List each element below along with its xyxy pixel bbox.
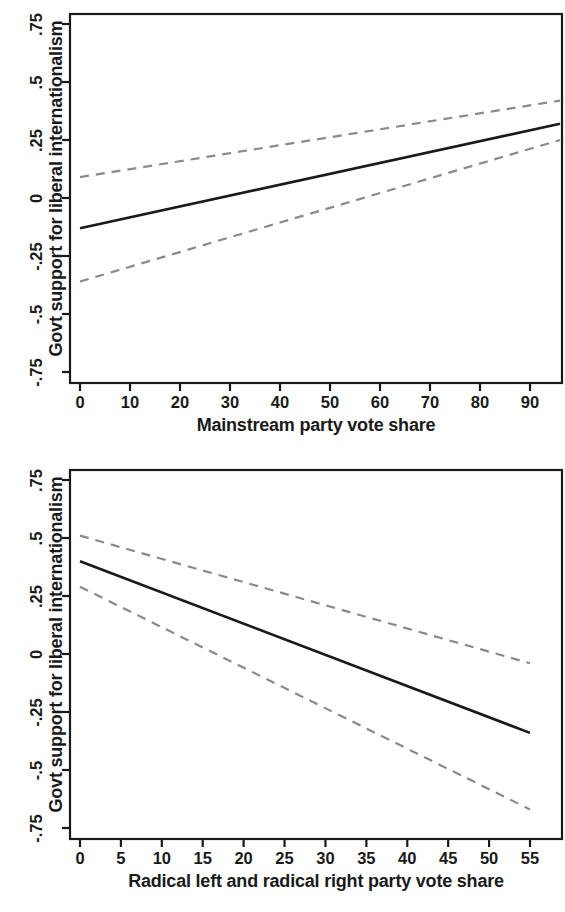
- x-tick-label: 80: [460, 393, 500, 412]
- y-tick-label: -.5: [27, 288, 46, 342]
- y-tick-label: 0: [27, 628, 46, 682]
- x-tick-label: 15: [183, 849, 223, 868]
- y-tick-label: .5: [27, 512, 46, 566]
- plot-area-mainstream: [0, 0, 565, 456]
- x-tick-label: 5: [101, 849, 141, 868]
- x-tick-label: 55: [510, 849, 550, 868]
- x-tick-label: 45: [428, 849, 468, 868]
- x-tick-label: 20: [160, 393, 200, 412]
- y-tick-label: .25: [27, 570, 46, 624]
- y-tick-label: 0: [27, 172, 46, 226]
- x-tick-label: 60: [360, 393, 400, 412]
- y-axis-title-top: Govt support for liberal internationalis…: [46, 37, 67, 357]
- x-axis-title-bottom: Radical left and radical right party vot…: [70, 871, 562, 892]
- x-tick-label: 10: [142, 849, 182, 868]
- x-tick-label: 0: [60, 849, 100, 868]
- x-tick-label: 10: [110, 393, 150, 412]
- y-tick-label: -.75: [27, 802, 46, 856]
- y-tick-label: .75: [27, 454, 46, 508]
- x-tick-label: 35: [346, 849, 386, 868]
- panel-radical-party: Govt support for liberal internationalis…: [0, 456, 565, 912]
- x-tick-label: 30: [210, 393, 250, 412]
- x-tick-label: 50: [310, 393, 350, 412]
- x-tick-label: 40: [260, 393, 300, 412]
- plot-area-radical: [0, 456, 565, 912]
- x-tick-label: 30: [305, 849, 345, 868]
- x-tick-label: 20: [224, 849, 264, 868]
- x-axis-title-top: Mainstream party vote share: [70, 415, 562, 436]
- x-tick-label: 40: [387, 849, 427, 868]
- y-tick-label: -.25: [27, 230, 46, 284]
- y-tick-label: .75: [27, 0, 46, 52]
- y-tick-label: -.25: [27, 686, 46, 740]
- panel-mainstream-party: Govt support for liberal internationalis…: [0, 0, 565, 456]
- y-tick-label: .25: [27, 114, 46, 168]
- x-tick-label: 90: [510, 393, 550, 412]
- y-axis-title-bottom: Govt support for liberal internationalis…: [46, 493, 67, 813]
- x-tick-label: 25: [265, 849, 305, 868]
- y-tick-label: .5: [27, 56, 46, 110]
- x-tick-label: 50: [469, 849, 509, 868]
- y-tick-label: -.75: [27, 346, 46, 400]
- x-tick-label: 0: [60, 393, 100, 412]
- y-tick-label: -.5: [27, 744, 46, 798]
- x-tick-label: 70: [410, 393, 450, 412]
- figure-two-panel-marginal-effects: Govt support for liberal internationalis…: [0, 0, 565, 912]
